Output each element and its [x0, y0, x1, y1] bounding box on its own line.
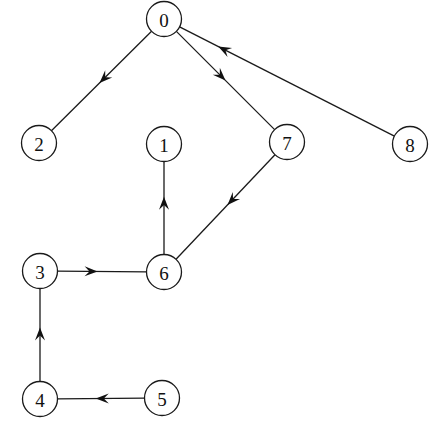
node-label: 4: [35, 390, 45, 411]
graph-edge: [57, 266, 146, 276]
node-label: 2: [34, 134, 44, 155]
graph-node-8[interactable]: 8: [393, 127, 428, 162]
graph-svg: 012345678: [0, 0, 432, 438]
graph-node-2[interactable]: 2: [22, 126, 57, 161]
node-label: 7: [282, 133, 292, 154]
edge-line: [176, 155, 275, 260]
graph-edge: [176, 155, 275, 260]
edge-arrowhead-icon: [218, 47, 232, 57]
node-label: 8: [405, 135, 415, 156]
graph-edge: [51, 31, 151, 130]
graph-node-4[interactable]: 4: [23, 382, 58, 417]
graph-edge: [57, 393, 144, 403]
graph-edge: [180, 27, 395, 136]
graph-node-7[interactable]: 7: [270, 125, 305, 160]
edge-line: [57, 271, 146, 272]
graph-node-6[interactable]: 6: [147, 255, 182, 290]
edge-line: [180, 27, 395, 136]
node-label: 5: [157, 389, 167, 410]
graph-diagram-canvas: 012345678: [0, 0, 432, 438]
graph-node-0[interactable]: 0: [147, 2, 182, 37]
node-label: 1: [159, 135, 169, 156]
graph-edge: [176, 31, 274, 129]
graph-node-3[interactable]: 3: [23, 254, 58, 289]
node-label: 6: [159, 263, 169, 284]
graph-node-5[interactable]: 5: [145, 381, 180, 416]
graph-edge: [35, 289, 45, 382]
graph-node-1[interactable]: 1: [147, 127, 182, 162]
node-label: 0: [159, 10, 169, 31]
node-label: 3: [35, 262, 45, 283]
edges-layer: [35, 27, 394, 404]
graph-edge: [159, 162, 169, 255]
